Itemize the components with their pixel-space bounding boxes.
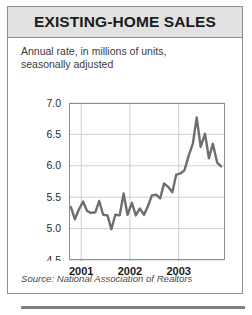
chart-title-band: EXISTING-HOME SALES <box>8 7 242 38</box>
subtitle-line-1: Annual rate, in millions of units, <box>21 45 226 58</box>
subtitle-line-2: seasonally adjusted <box>21 58 226 71</box>
y-tick-label: 6.0 <box>46 159 61 171</box>
plot-frame <box>70 104 225 260</box>
y-tick-label: 4.5 <box>46 254 61 261</box>
y-tick-label: 6.5 <box>46 128 61 140</box>
chart-figure: EXISTING-HOME SALES Annual rate, in mill… <box>7 6 243 294</box>
y-tick-label: 5.5 <box>46 191 61 203</box>
y-tick-label: 7.0 <box>46 97 61 109</box>
y-tick-label: 5.0 <box>46 222 61 234</box>
page-title: EXISTING-HOME SALES <box>34 13 216 31</box>
chart-subtitle: Annual rate, in millions of units, seaso… <box>21 45 226 71</box>
bottom-rule <box>21 306 245 309</box>
plot-area: 7.06.56.05.55.04.5 200120022003 <box>8 89 244 261</box>
chart-source: Source: National Association of Realtors <box>21 273 232 284</box>
line-chart-svg: 7.06.56.05.55.04.5 <box>8 89 244 261</box>
